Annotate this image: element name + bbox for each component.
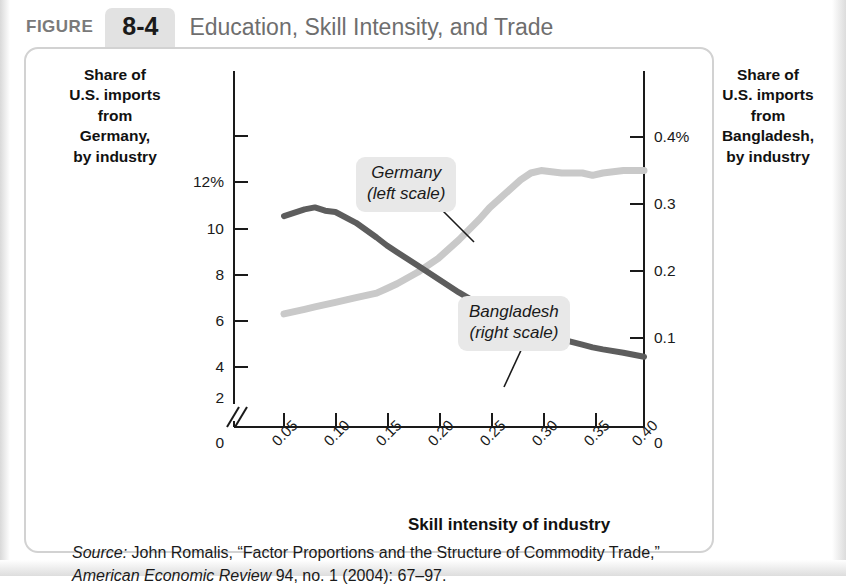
source-citation-after: 94, no. 1 (2004): 67–97. (271, 567, 446, 584)
source-note: Source: John Romalis, “Factor Proportion… (72, 541, 712, 587)
left-tick-label-12: 12% (158, 173, 224, 191)
right-tick-label-02: 0.2 (654, 262, 676, 280)
left-axis-break-icon (227, 407, 247, 427)
left-tick-label-2: 2 (158, 389, 224, 407)
right-tick-label-0: 0 (654, 434, 663, 452)
right-axis-title: Share of U.S. imports from Bangladesh, b… (698, 65, 838, 167)
x-axis-title: Skill intensity of industry (408, 515, 610, 535)
left-tick-label-4: 4 (158, 358, 224, 376)
source-citation-before: John Romalis, “Factor Proportions and th… (127, 544, 660, 561)
left-tick-label-0: 0 (158, 434, 224, 452)
germany-series-callout: Germany (left scale) (356, 157, 456, 212)
page-edge-shading-left (0, 0, 10, 576)
right-tick-label-01: 0.1 (654, 329, 676, 347)
left-tick-label-8: 8 (158, 266, 224, 284)
source-journal-name: American Economic Review (72, 567, 271, 584)
figure-label: FIGURE (26, 17, 93, 37)
right-tick-label-04: 0.4% (654, 128, 689, 146)
left-tick-label-10: 10 (158, 220, 224, 238)
figure-number-badge: 8-4 (105, 8, 175, 47)
bangladesh-series-callout: Bangladesh (right scale) (458, 296, 570, 351)
figure-card: Share of U.S. imports from Germany, by i… (24, 47, 714, 553)
plot-area: Share of U.S. imports from Germany, by i… (26, 49, 716, 489)
chart-canvas (26, 49, 716, 489)
figure-title: Education, Skill Intensity, and Trade (189, 14, 553, 41)
bangladesh-callout-leader (504, 346, 523, 387)
left-axis-ticks (234, 136, 248, 367)
right-tick-label-03: 0.3 (654, 195, 676, 213)
source-label: Source: (72, 544, 127, 561)
figure-header: FIGURE 8-4 Education, Skill Intensity, a… (26, 6, 553, 48)
left-tick-label-6: 6 (158, 312, 224, 330)
